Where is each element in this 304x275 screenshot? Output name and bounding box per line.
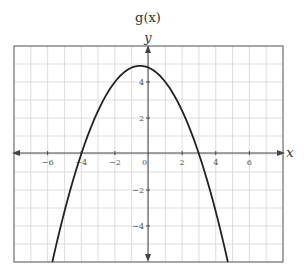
g-of-x-curve (52, 66, 228, 262)
x-tick-label: 6 (247, 158, 252, 167)
x-tick-label: 0 (142, 158, 147, 167)
y-tick-label: −2 (132, 186, 144, 195)
x-axis-left-arrow-icon (12, 150, 20, 156)
y-axis-label: y (143, 30, 152, 45)
chart-title: g(x) (135, 10, 161, 25)
x-tick-label: 2 (180, 158, 185, 167)
y-tick-label: 2 (139, 114, 144, 123)
x-tick-label: −6 (42, 158, 54, 167)
x-axis-label: x (286, 145, 294, 160)
y-tick-label: 4 (139, 78, 144, 87)
y-tick-label: −4 (132, 222, 144, 231)
y-axis-down-arrow-icon (145, 254, 151, 262)
x-tick-label: −2 (109, 158, 121, 167)
x-axis-right-arrow-icon (277, 150, 285, 156)
x-tick-label: 4 (213, 158, 218, 167)
function-graph: g(x) y x −6−4−20246 42−2−4 (0, 0, 304, 275)
